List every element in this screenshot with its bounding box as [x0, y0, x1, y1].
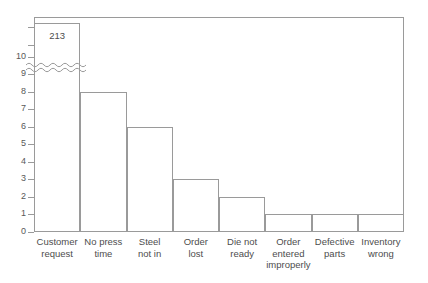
bar — [265, 214, 311, 232]
x-axis-category-label: Inventory wrong — [355, 236, 407, 259]
y-axis-tick-label: 5 — [4, 139, 26, 148]
bar — [80, 92, 126, 232]
y-axis-tick-label: 3 — [4, 174, 26, 183]
y-axis-tick-label: 0 — [4, 227, 26, 236]
bar — [312, 214, 358, 232]
x-axis-category-label: Customer request — [31, 236, 83, 259]
y-axis-tick-label: 8 — [4, 87, 26, 96]
y-axis-tick-label: 2 — [4, 192, 26, 201]
x-axis-category-label: No press time — [77, 236, 129, 259]
y-axis-tick-label: 10 — [4, 52, 26, 61]
pareto-chart: 012345678910 213 Customer requestNo pres… — [0, 0, 428, 283]
x-axis-category-label: Defective parts — [309, 236, 361, 259]
bar — [34, 23, 80, 232]
y-axis-tick-label: 4 — [4, 157, 26, 166]
y-axis-tick — [28, 232, 34, 233]
y-axis-tick-label: 7 — [4, 104, 26, 113]
x-axis-category-label: Steel not in — [124, 236, 176, 259]
x-axis-category-label: Order lost — [170, 236, 222, 259]
y-axis-tick-label: 9 — [4, 69, 26, 78]
y-axis-tick-label: 1 — [4, 209, 26, 218]
bar — [219, 197, 265, 232]
bar — [358, 214, 404, 232]
bar — [173, 179, 219, 232]
y-axis-tick-label: 6 — [4, 122, 26, 131]
x-axis-category-label: Die not ready — [216, 236, 268, 259]
bar-value-label: 213 — [34, 31, 80, 41]
bar — [127, 127, 173, 232]
x-axis-category-label: Order entered improperly — [262, 236, 314, 271]
